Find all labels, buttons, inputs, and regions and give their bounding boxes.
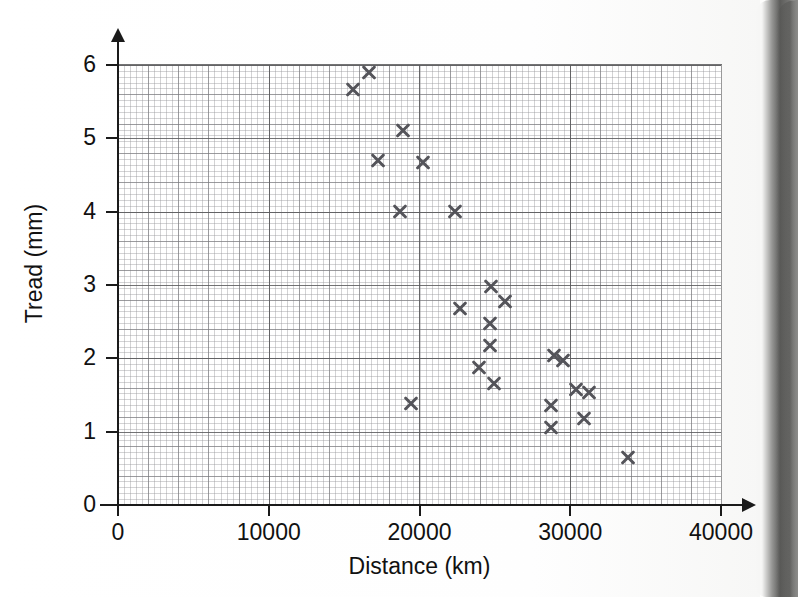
y-axis-tick: [106, 211, 118, 213]
y-axis-line: [117, 38, 119, 508]
y-axis-tick-label: 1: [66, 420, 96, 443]
x-axis-tick: [117, 504, 119, 516]
y-axis-tick: [106, 357, 118, 359]
x-axis-arrow-icon: [742, 498, 756, 512]
scatter-chart: 0123456 010000200003000040000 Distance (…: [0, 0, 760, 597]
y-axis-tick-label: 2: [66, 346, 96, 369]
x-axis-tick-label: 30000: [510, 521, 630, 544]
y-axis-tick: [106, 137, 118, 139]
x-axis-tick: [268, 504, 270, 516]
plot-right-border: [721, 65, 722, 506]
y-axis-tick-label: 3: [66, 273, 96, 296]
scanned-page: 0123456 010000200003000040000 Distance (…: [0, 0, 798, 597]
y-axis-arrow-icon: [111, 28, 125, 42]
y-axis-tick-label: 6: [66, 53, 96, 76]
y-axis-tick-label: 0: [66, 493, 96, 516]
x-axis-tick: [569, 504, 571, 516]
book-spine-inner-shadow: [776, 0, 798, 597]
x-axis-tick-label: 10000: [209, 521, 329, 544]
y-axis-title: Tread (mm): [21, 134, 48, 394]
y-axis-tick: [106, 284, 118, 286]
plot-area-grid: [118, 65, 721, 505]
x-axis-tick: [720, 504, 722, 516]
x-axis-tick-label: 20000: [360, 521, 480, 544]
y-axis-tick-label: 5: [66, 126, 96, 149]
x-axis-line: [100, 504, 743, 506]
y-axis-tick: [106, 64, 118, 66]
book-spine-shadow: [756, 0, 798, 597]
plot-top-border: [118, 64, 722, 65]
y-axis-tick-label: 4: [66, 200, 96, 223]
y-axis-tick: [106, 431, 118, 433]
x-axis-title: Distance (km): [118, 553, 721, 580]
x-axis-tick: [419, 504, 421, 516]
x-axis-tick-label: 0: [58, 521, 178, 544]
